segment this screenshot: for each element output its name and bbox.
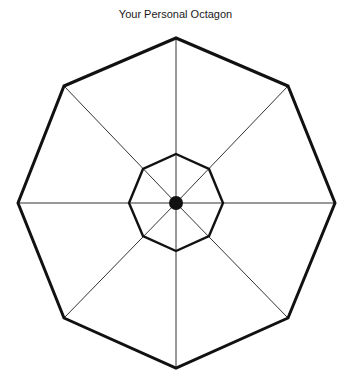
personal-octagon-diagram xyxy=(0,0,351,388)
spoke-line xyxy=(64,86,176,203)
spoke-line xyxy=(176,86,288,203)
spoke-line xyxy=(176,203,288,318)
spoke-line xyxy=(64,203,176,318)
center-dot xyxy=(169,196,183,210)
